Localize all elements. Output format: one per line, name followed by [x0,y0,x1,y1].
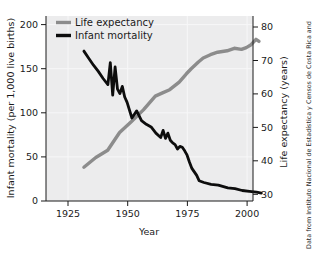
x-tick-label-2000: 2000 [235,208,259,219]
y-axis-right-title: Life expectancy (years) [278,56,289,168]
y-tick-label-50: 50 [26,151,38,162]
y2-tick-label-60: 60 [261,88,273,99]
data-source-credit: Data from Instituto Nacional de Estadíst… [305,21,313,249]
y-axis-left-title: Infant mortality (per 1,000 live births) [5,18,16,198]
y2-tick-label-70: 70 [261,55,273,66]
x-tick-label-1975: 1975 [175,208,199,219]
infant-mortality-life-expectancy-chart: 0 50 100 150 200 30 40 50 60 70 80 [0,0,319,254]
legend-label-infant-mortality: Infant mortality [75,30,153,41]
chart-figure: 0 50 100 150 200 30 40 50 60 70 80 [0,0,319,254]
legend-label-life-expectancy: Life expectancy [75,17,154,28]
plot-area-background [46,16,253,201]
y2-tick-label-80: 80 [261,21,273,32]
y-tick-label-150: 150 [20,63,38,74]
x-tick-label-1950: 1950 [116,208,140,219]
y2-tick-label-50: 50 [261,122,273,133]
x-tick-label-1925: 1925 [56,208,80,219]
y2-tick-label-30: 30 [261,189,273,200]
y-tick-label-100: 100 [20,107,38,118]
y-tick-label-200: 200 [20,19,38,30]
y2-tick-label-40: 40 [261,155,273,166]
y-tick-label-0: 0 [32,195,38,206]
x-axis-title: Year [138,226,159,237]
